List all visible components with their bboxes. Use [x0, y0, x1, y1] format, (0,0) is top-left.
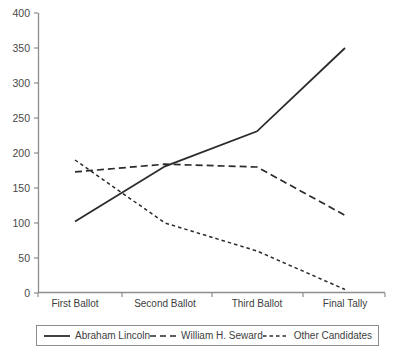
legend-item-other-candidates[interactable]: Other Candidates [263, 330, 372, 341]
plot-area [0, 0, 405, 354]
legend-swatch-solid-icon [44, 332, 70, 340]
legend-label: William H. Seward [181, 330, 263, 341]
legend-item-abraham-lincoln[interactable]: Abraham Lincoln [44, 330, 150, 341]
legend-swatch-dashed-icon [150, 332, 176, 340]
legend-label: Other Candidates [294, 330, 372, 341]
series-line-william-h-seward [75, 164, 345, 215]
legend-swatch-dotted-icon [263, 332, 289, 340]
series-line-abraham-lincoln [75, 48, 345, 222]
y-axis-ticks [34, 13, 38, 293]
legend-item-william-h-seward[interactable]: William H. Seward [150, 330, 263, 341]
x-axis-ticks [38, 293, 385, 297]
legend: Abraham Lincoln William H. Seward Other … [36, 325, 379, 346]
legend-label: Abraham Lincoln [75, 330, 150, 341]
line-chart: 400 350 300 250 200 150 100 50 0 First B… [0, 0, 405, 354]
series-line-other-candidates [75, 160, 345, 290]
